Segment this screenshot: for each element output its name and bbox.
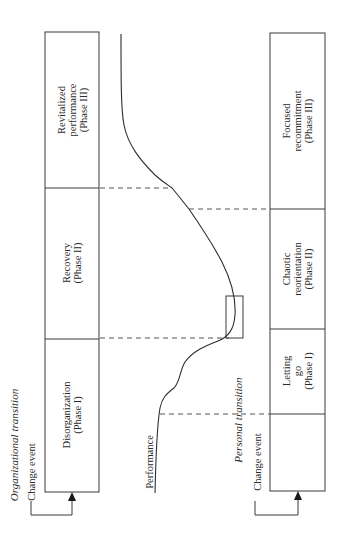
personal-transition-title: Personal transition <box>233 377 244 462</box>
arrowhead-icon <box>294 491 302 500</box>
organizational-transition-title: Organizational transition <box>9 389 20 501</box>
transition-diagram: Organizational transition Change event D… <box>0 0 342 546</box>
org-phase-revitalized-performance: Revitalized performance (Phase III) <box>56 83 89 136</box>
org-phase-disorganization: Disorganization (Phase I) <box>61 382 83 449</box>
dashed-phase-connectors <box>100 188 270 414</box>
organizational-change-event-arrow <box>31 492 76 515</box>
personal-phase-focused-recommitment: Focused recommitment (Phase III) <box>281 90 314 151</box>
personal-phase-letting-go: Letting go (Phase I) <box>281 352 314 390</box>
arrowhead-icon <box>68 492 76 501</box>
personal-change-event-label: Change event <box>252 433 263 490</box>
personal-phase-chaotic-reorientation: Chaotic reorientation (Phase II) <box>281 242 314 296</box>
performance-curve <box>121 34 235 493</box>
organizational-change-event-label: Change event <box>26 443 37 500</box>
personal-change-event-arrow <box>255 491 302 515</box>
performance-axis-label: Performance <box>144 435 155 489</box>
org-phase-recovery: Recovery (Phase II) <box>61 242 83 283</box>
